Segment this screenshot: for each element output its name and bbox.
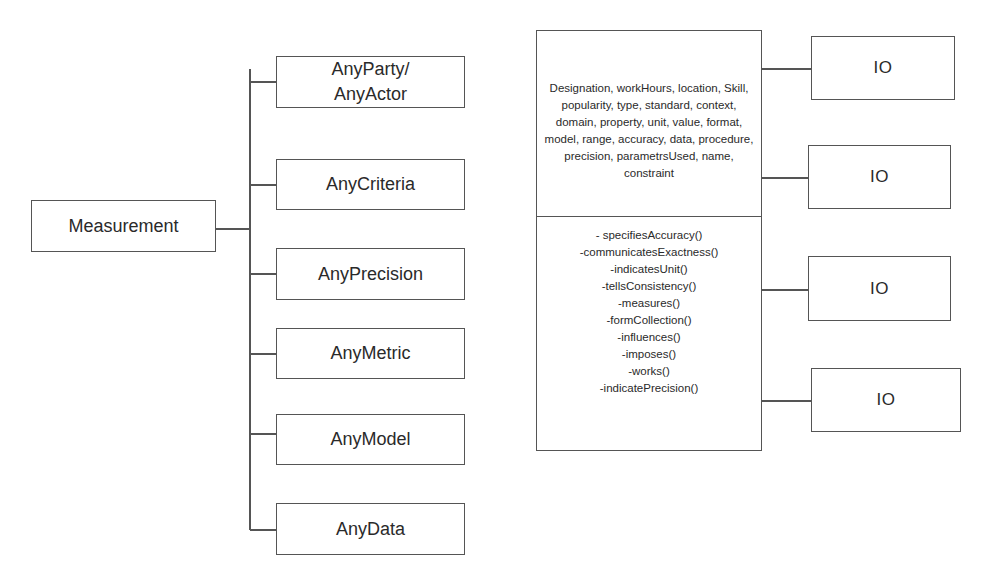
branch-connector (250, 273, 276, 275)
class-box: Designation, workHours, location, Skill,… (536, 30, 762, 451)
io-box: IO (811, 36, 955, 100)
tree-trunk (249, 69, 251, 530)
branch-connector (250, 433, 276, 435)
operation-item: -influences() (537, 329, 761, 346)
operation-item: -tellsConsistency() (537, 278, 761, 295)
io-connector (761, 177, 808, 179)
operation-item: -imposes() (537, 346, 761, 363)
child-node-anymetric: AnyMetric (276, 328, 465, 379)
operation-item: -indicatePrecision() (537, 380, 761, 397)
operation-item: -indicatesUnit() (537, 261, 761, 278)
child-node-anydata: AnyData (276, 503, 465, 555)
child-label: AnyPrecision (318, 262, 423, 287)
io-connector (761, 289, 808, 291)
branch-connector (250, 529, 276, 531)
root-connector (216, 228, 250, 230)
io-label: IO (870, 279, 889, 299)
operation-item: -formCollection() (537, 312, 761, 329)
io-label: IO (877, 390, 896, 410)
branch-connector (250, 81, 276, 83)
child-node-anycriteria: AnyCriteria (276, 159, 465, 210)
operation-item: -communicatesExactness() (537, 244, 761, 261)
io-connector (761, 400, 811, 402)
child-label: AnyMetric (330, 341, 410, 366)
attributes-text: Designation, workHours, location, Skill,… (541, 80, 757, 182)
child-label: AnyCriteria (326, 172, 415, 197)
operation-item: - specifiesAccuracy() (537, 227, 761, 244)
operation-item: -measures() (537, 295, 761, 312)
child-node-anymodel: AnyModel (276, 414, 465, 465)
measurement-label: Measurement (68, 214, 178, 239)
io-box: IO (808, 145, 951, 209)
child-node-anyprecision: AnyPrecision (276, 248, 465, 300)
io-connector (761, 68, 811, 70)
io-label: IO (874, 58, 893, 78)
child-label: AnyData (336, 517, 405, 542)
child-node-anyparty: AnyParty/ AnyActor (276, 56, 465, 108)
class-operations: - specifiesAccuracy() -communicatesExact… (537, 217, 761, 397)
io-box: IO (808, 256, 951, 321)
operation-item: -works() (537, 363, 761, 380)
child-label: AnyParty/ AnyActor (316, 57, 426, 107)
io-label: IO (870, 167, 889, 187)
io-box: IO (811, 368, 961, 432)
branch-connector (250, 353, 276, 355)
child-label: AnyModel (330, 427, 410, 452)
branch-connector (250, 184, 276, 186)
class-attributes: Designation, workHours, location, Skill,… (537, 31, 761, 217)
measurement-node: Measurement (31, 200, 216, 252)
